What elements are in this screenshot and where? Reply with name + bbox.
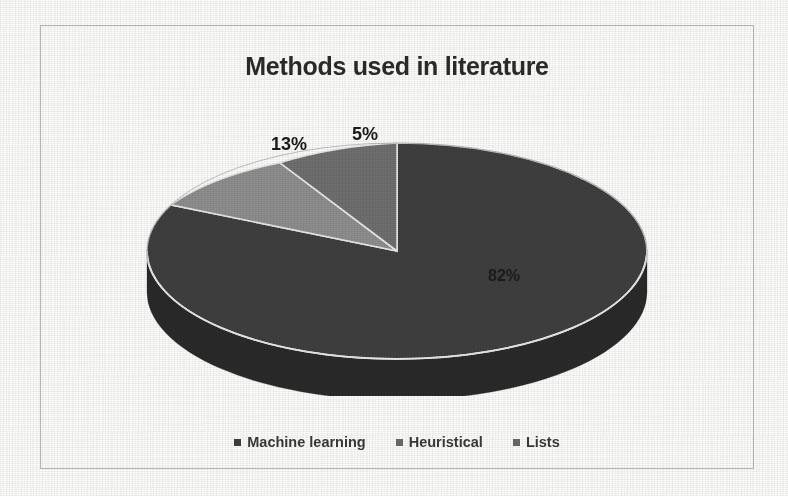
legend-item-label: Lists: [526, 434, 560, 450]
chart-legend: Machine learning Heuristical Lists: [41, 434, 753, 450]
legend-item-lists[interactable]: Lists: [513, 434, 560, 450]
legend-item-machine-learning[interactable]: Machine learning: [234, 434, 365, 450]
pie-label-lists: 5%: [352, 124, 378, 144]
legend-swatch-icon: [513, 439, 520, 446]
legend-swatch-icon: [234, 439, 241, 446]
legend-item-label: Machine learning: [247, 434, 365, 450]
pie-label-machine-learning: 82%: [488, 267, 520, 284]
pie-label-heuristical: 13%: [271, 134, 307, 154]
chart-title: Methods used in literature: [41, 52, 753, 81]
pie-top-face: [147, 143, 647, 359]
legend-item-label: Heuristical: [409, 434, 483, 450]
legend-item-heuristical[interactable]: Heuristical: [396, 434, 483, 450]
legend-swatch-icon: [396, 439, 403, 446]
chart-frame: Methods used in literature: [40, 25, 754, 469]
pie-chart-area: 82% 13% 5%: [41, 96, 753, 396]
pie-chart-svg: 82% 13% 5%: [137, 96, 657, 396]
